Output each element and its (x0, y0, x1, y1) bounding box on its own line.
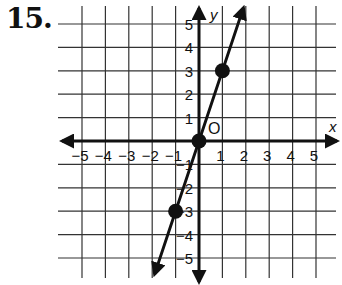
y-tick-label: −4 (176, 227, 193, 244)
y-tick-label: 2 (185, 86, 193, 103)
data-point (168, 204, 183, 219)
x-axis-label: x (328, 118, 337, 135)
x-tick-label: 1 (216, 147, 224, 164)
x-tick-label: −2 (142, 147, 159, 164)
x-tick-label: −4 (95, 147, 112, 164)
y-tick-label: 4 (185, 39, 193, 56)
x-tick-label: −5 (71, 147, 88, 164)
y-tick-label: 5 (185, 16, 193, 33)
y-tick-label: 1 (185, 110, 193, 127)
x-tick-label: 4 (286, 147, 294, 164)
data-point (192, 134, 207, 149)
x-tick-label: 5 (310, 147, 318, 164)
y-axis-label: y (209, 6, 219, 23)
y-tick-label: 3 (185, 63, 193, 80)
x-tick-label: 2 (240, 147, 248, 164)
x-tick-label: 3 (263, 147, 271, 164)
y-tick-label: −5 (176, 250, 193, 267)
origin-label: O (208, 120, 220, 137)
x-tick-label: −3 (118, 147, 135, 164)
data-point (215, 63, 230, 78)
coordinate-graph: −5−4−3−2−112345−5−4−3−2−112345 xyO (0, 0, 342, 285)
